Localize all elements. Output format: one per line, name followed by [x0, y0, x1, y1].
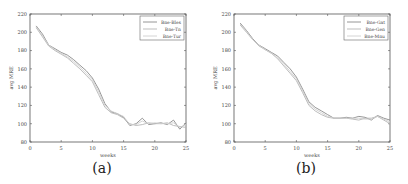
line-chart-b: 051015202580100120140160180200220weeksav…	[204, 0, 408, 160]
x-tick-label: 10	[293, 145, 299, 151]
caption-a: (a)	[0, 160, 204, 176]
y-tick-label: 80	[21, 139, 27, 145]
x-tick-label: 25	[387, 145, 393, 151]
x-tick-label: 15	[324, 145, 330, 151]
x-tick-label: 10	[89, 145, 95, 151]
legend-label: Bne-Tur	[163, 34, 182, 39]
y-axis-label: avg MRE	[8, 66, 15, 89]
y-tick-label: 180	[221, 47, 231, 53]
x-tick-label: 5	[60, 145, 63, 151]
x-tick-label: 0	[232, 145, 235, 151]
caption-b: (b)	[204, 160, 408, 176]
legend-label: Bne-Gat	[367, 20, 386, 25]
x-axis-label: weeks	[304, 152, 320, 158]
legend-label: Bne-Gen	[365, 27, 385, 32]
x-tick-label: 0	[28, 145, 31, 151]
y-tick-label: 160	[221, 66, 231, 72]
x-tick-label: 5	[264, 145, 267, 151]
x-tick-label: 25	[183, 145, 189, 151]
x-tick-label: 20	[356, 145, 362, 151]
legend-label: Bne-Tn	[165, 27, 181, 32]
y-axis-label: avg MRE	[212, 66, 219, 89]
y-tick-label: 200	[17, 29, 27, 35]
series-line	[36, 28, 186, 128]
y-tick-label: 140	[221, 84, 231, 90]
x-axis-label: weeks	[100, 152, 116, 158]
line-chart-a: 051015202580100120140160180200220weeksav…	[0, 0, 204, 160]
y-tick-label: 220	[221, 11, 231, 17]
y-tick-label: 180	[17, 47, 27, 53]
chart-panel-a: 051015202580100120140160180200220weeksav…	[0, 0, 204, 184]
legend-label: Bne-Bles	[161, 20, 182, 25]
chart-panel-b: 051015202580100120140160180200220weeksav…	[204, 0, 408, 184]
y-tick-label: 220	[17, 11, 27, 17]
legend-label: Bne-Mnu	[364, 34, 385, 39]
x-tick-label: 15	[120, 145, 126, 151]
series-line	[36, 26, 186, 129]
y-tick-label: 200	[221, 29, 231, 35]
y-tick-label: 140	[17, 84, 27, 90]
y-tick-label: 100	[221, 121, 231, 127]
x-tick-label: 20	[152, 145, 158, 151]
y-tick-label: 120	[17, 102, 27, 108]
y-tick-label: 100	[17, 121, 27, 127]
y-tick-label: 160	[17, 66, 27, 72]
y-tick-label: 80	[225, 139, 231, 145]
y-tick-label: 120	[221, 102, 231, 108]
